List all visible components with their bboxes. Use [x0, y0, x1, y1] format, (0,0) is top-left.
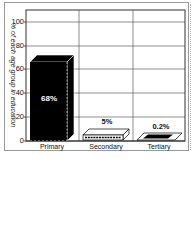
bar-secondary [83, 129, 129, 140]
x-tick-primary: Primary [27, 143, 77, 150]
bar-tertiary [137, 133, 182, 140]
value-label-secondary: 5% [92, 117, 122, 126]
x-tick-tertiary: Tertiary [134, 143, 184, 150]
value-label-primary: 68% [34, 94, 64, 103]
value-label-tertiary: 0.2% [146, 122, 176, 131]
x-tick-secondary: Secondary [81, 143, 131, 150]
